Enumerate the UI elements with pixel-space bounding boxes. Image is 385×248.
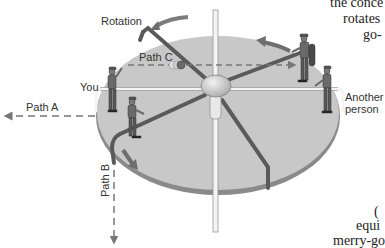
path-a-label: Path A <box>26 102 58 113</box>
path-b-label: Path B <box>100 164 111 197</box>
ball-icon <box>177 61 185 69</box>
path-c-label: Path C <box>139 52 173 63</box>
body-text-fragment: ( <box>374 205 379 219</box>
rotation-label: Rotation <box>101 16 142 27</box>
body-text-fragment: the conce <box>330 0 383 10</box>
body-text-fragment: equi <box>356 219 380 233</box>
body-text-fragment: rotates <box>343 12 380 26</box>
another-person-label-line2: person <box>345 104 379 115</box>
center-post <box>213 10 218 232</box>
body-text-fragment: go- <box>363 28 382 42</box>
body-text-fragment: merry-go <box>333 234 385 248</box>
rotation-arrow-icon <box>150 17 188 30</box>
you-label: You <box>80 82 99 93</box>
another-person-label-line1: Another <box>345 92 384 103</box>
